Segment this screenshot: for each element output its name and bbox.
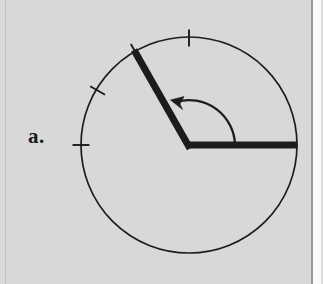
tick-marks <box>73 30 190 146</box>
rotation-arrowhead-icon <box>171 97 185 110</box>
figure-page: a. <box>0 0 323 284</box>
angle-in-circle-diagram <box>0 0 323 284</box>
